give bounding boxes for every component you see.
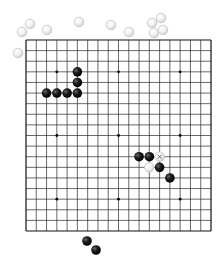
board-intersection[interactable]: [144, 204, 154, 215]
board-intersection[interactable]: [154, 141, 164, 152]
board-intersection[interactable]: [144, 56, 154, 67]
board-intersection[interactable]: [93, 45, 103, 56]
board-intersection[interactable]: [83, 67, 93, 78]
board-intersection[interactable]: [52, 45, 62, 56]
board-intersection[interactable]: [124, 109, 134, 120]
board-intersection[interactable]: [185, 194, 195, 205]
board-intersection[interactable]: [175, 77, 185, 88]
board-intersection[interactable]: [124, 215, 134, 226]
board-intersection[interactable]: [165, 67, 175, 78]
board-intersection[interactable]: [31, 88, 41, 99]
board-intersection[interactable]: [52, 162, 62, 173]
board-intersection[interactable]: [165, 77, 175, 88]
board-intersection[interactable]: [83, 109, 93, 120]
board-intersection[interactable]: [134, 226, 144, 237]
board-intersection[interactable]: [196, 194, 206, 205]
board-intersection[interactable]: [21, 226, 31, 237]
board-intersection[interactable]: [31, 226, 41, 237]
board-intersection[interactable]: [21, 141, 31, 152]
board-intersection[interactable]: [103, 67, 113, 78]
board-intersection[interactable]: [175, 173, 185, 184]
board-intersection[interactable]: [144, 109, 154, 120]
board-intersection[interactable]: [175, 88, 185, 99]
board-intersection[interactable]: [21, 109, 31, 120]
board-intersection[interactable]: [103, 98, 113, 109]
board-intersection[interactable]: [185, 226, 195, 237]
board-intersection[interactable]: [62, 215, 72, 226]
board-intersection[interactable]: [175, 141, 185, 152]
board-intersection[interactable]: [154, 77, 164, 88]
board-intersection[interactable]: [93, 35, 103, 46]
board-intersection[interactable]: [206, 35, 216, 46]
board-intersection[interactable]: [134, 215, 144, 226]
board-intersection[interactable]: [113, 77, 123, 88]
board-intersection[interactable]: [134, 141, 144, 152]
board-intersection[interactable]: [31, 67, 41, 78]
board-intersection[interactable]: [41, 130, 51, 141]
board-intersection[interactable]: [83, 151, 93, 162]
board-intersection[interactable]: [196, 77, 206, 88]
board-intersection[interactable]: [165, 56, 175, 67]
board-intersection[interactable]: [62, 204, 72, 215]
board-intersection[interactable]: [31, 35, 41, 46]
board-intersection[interactable]: [185, 88, 195, 99]
board-intersection[interactable]: [31, 194, 41, 205]
board-intersection[interactable]: [124, 130, 134, 141]
board-intersection[interactable]: [72, 130, 82, 141]
board-intersection[interactable]: [83, 183, 93, 194]
board-intersection[interactable]: [31, 56, 41, 67]
board-intersection[interactable]: [196, 35, 206, 46]
board-intersection[interactable]: [206, 151, 216, 162]
board-intersection[interactable]: [154, 56, 164, 67]
board-intersection[interactable]: [124, 45, 134, 56]
board-intersection[interactable]: [62, 45, 72, 56]
board-intersection[interactable]: [103, 173, 113, 184]
board-intersection[interactable]: [62, 56, 72, 67]
board-intersection[interactable]: [165, 141, 175, 152]
board-intersection[interactable]: [154, 109, 164, 120]
board-intersection[interactable]: [93, 120, 103, 131]
board-intersection[interactable]: [206, 215, 216, 226]
board-intersection[interactable]: [62, 173, 72, 184]
board-intersection[interactable]: [134, 77, 144, 88]
board-intersection[interactable]: [93, 204, 103, 215]
board-intersection[interactable]: [31, 98, 41, 109]
board-intersection[interactable]: [165, 98, 175, 109]
board-intersection[interactable]: [52, 204, 62, 215]
board-intersection[interactable]: [31, 141, 41, 152]
board-intersection[interactable]: [134, 130, 144, 141]
board-intersection[interactable]: [72, 183, 82, 194]
board-intersection[interactable]: [52, 141, 62, 152]
board-intersection[interactable]: [196, 120, 206, 131]
board-intersection[interactable]: [83, 141, 93, 152]
board-intersection[interactable]: [196, 98, 206, 109]
board-intersection[interactable]: [206, 98, 216, 109]
board-intersection[interactable]: [83, 130, 93, 141]
board-intersection[interactable]: [31, 130, 41, 141]
board-intersection[interactable]: [93, 162, 103, 173]
board-intersection[interactable]: [62, 226, 72, 237]
board-intersection[interactable]: [124, 173, 134, 184]
board-intersection[interactable]: [165, 194, 175, 205]
board-intersection[interactable]: [21, 151, 31, 162]
board-intersection[interactable]: [113, 141, 123, 152]
board-intersection[interactable]: [62, 183, 72, 194]
board-intersection[interactable]: [103, 130, 113, 141]
board-intersection[interactable]: [72, 45, 82, 56]
board-intersection[interactable]: [72, 35, 82, 46]
board-intersection[interactable]: [165, 109, 175, 120]
board-intersection[interactable]: [72, 98, 82, 109]
board-intersection[interactable]: [144, 35, 154, 46]
board-intersection[interactable]: [206, 183, 216, 194]
board-intersection[interactable]: [144, 183, 154, 194]
board-intersection[interactable]: [93, 141, 103, 152]
board-intersection[interactable]: [93, 226, 103, 237]
board-intersection[interactable]: [103, 151, 113, 162]
board-intersection[interactable]: [185, 141, 195, 152]
board-intersection[interactable]: [165, 88, 175, 99]
board-intersection[interactable]: [62, 151, 72, 162]
board-intersection[interactable]: [185, 120, 195, 131]
board-intersection[interactable]: [83, 173, 93, 184]
board-intersection[interactable]: [72, 120, 82, 131]
board-intersection[interactable]: [124, 162, 134, 173]
